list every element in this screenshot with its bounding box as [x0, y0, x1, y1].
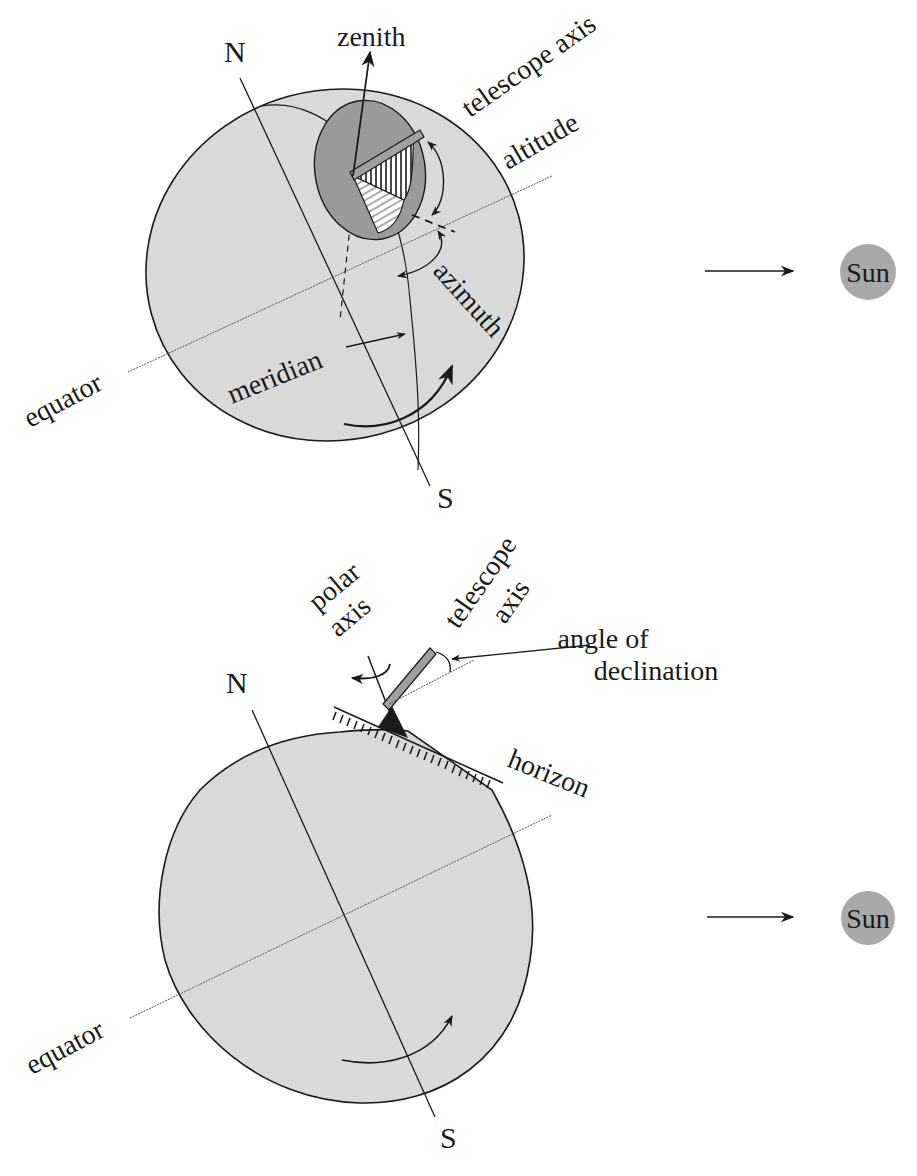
bottom-label-sun: Sun	[846, 903, 890, 934]
polar-rotation-arrow	[352, 664, 390, 678]
label-altitude: altitude	[496, 106, 584, 175]
telescope-mount-figure: N zenith telescope axis altitude azimuth…	[0, 0, 917, 1176]
declination-arc	[436, 652, 450, 672]
label-angle-of-declination-line1: angle of	[558, 623, 650, 654]
top-label-south: S	[437, 481, 454, 514]
bottom-label-south: S	[440, 1121, 457, 1154]
top-label-north: N	[224, 35, 246, 68]
bottom-label-equator: equator	[20, 1013, 109, 1080]
label-zenith: zenith	[337, 21, 405, 52]
label-angle-of-declination-line2: declination	[594, 655, 718, 686]
label-telescope-axis: telescope axis	[456, 8, 602, 123]
bottom-label-north: N	[226, 666, 248, 699]
label-horizon: horizon	[504, 743, 595, 804]
bottom-telescope-tube	[383, 648, 436, 710]
top-diagram: N zenith telescope axis altitude azimuth…	[18, 8, 896, 514]
bottom-diagram: N polar axis telescope axis angle of dec…	[20, 530, 895, 1154]
top-label-equator: equator	[18, 366, 107, 433]
bottom-globe	[159, 730, 532, 1103]
top-label-sun: Sun	[846, 257, 890, 288]
